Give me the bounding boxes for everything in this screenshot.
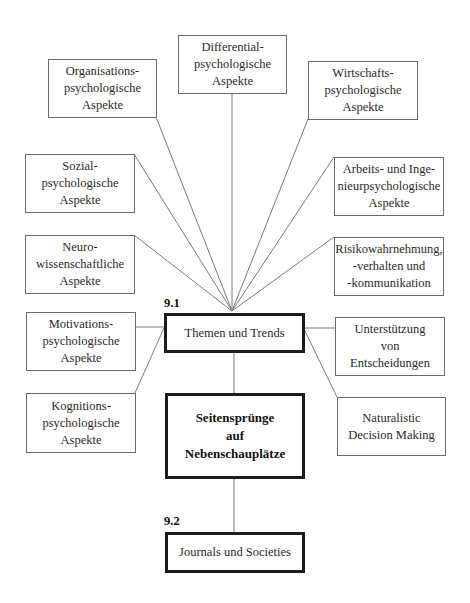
- section-title: Themen und Trends: [185, 325, 285, 342]
- topic-line: Differential-: [201, 39, 263, 56]
- topic-line: Neuro-: [62, 239, 97, 256]
- center-line: Seitensprünge: [196, 409, 275, 427]
- section-title: Journals und Societies: [179, 544, 291, 561]
- topic-line: Organisations-: [66, 63, 139, 80]
- topic-line: psychologische: [42, 415, 119, 432]
- section-number-9-1: 9.1: [164, 296, 180, 311]
- topic-line: Kognitions-: [51, 398, 111, 415]
- topic-line: Aspekte: [343, 99, 384, 116]
- topic-kognition: Kognitions- psychologische Aspekte: [26, 393, 136, 453]
- topic-line: Naturalistic: [362, 410, 420, 427]
- topic-line: psychologische: [324, 82, 401, 99]
- topic-line: Unterstützung: [355, 321, 426, 338]
- topic-line: Risikowahrnehmung,: [335, 241, 442, 258]
- section-themen-und-trends: Themen und Trends: [164, 313, 305, 353]
- topic-line: Motivations-: [49, 316, 114, 333]
- link-wirtschaft: [232, 119, 308, 311]
- topic-line: Entscheidungen: [350, 355, 430, 372]
- topic-neuro: Neuro- wissenschaftliche Aspekte: [25, 235, 135, 294]
- topic-wirtschaft: Wirtschafts- psychologische Aspekte: [308, 61, 418, 120]
- topic-line: von: [381, 338, 400, 355]
- topic-risiko: Risikowahrnehmung, -verhalten und -kommu…: [334, 237, 444, 296]
- center-seitenspruenge: Seitensprünge auf Nebenschauplätze: [165, 393, 305, 479]
- topic-line: psychologische: [42, 333, 119, 350]
- topic-line: Wirtschafts-: [332, 65, 393, 82]
- topic-unterstuetzung: Unterstützung von Entscheidungen: [335, 317, 445, 376]
- link-naturalistic: [304, 329, 337, 397]
- topic-line: Aspekte: [60, 273, 101, 290]
- link-kognition: [135, 328, 164, 393]
- topic-differential: Differential- psychologische Aspekte: [178, 35, 287, 94]
- topic-naturalistic: Naturalistic Decision Making: [337, 397, 446, 456]
- topic-line: nieurpsychologische: [338, 178, 441, 195]
- section-journals-und-societies: Journals und Societies: [165, 532, 305, 573]
- center-line: Nebenschauplätze: [185, 445, 285, 463]
- topic-motivation: Motivations- psychologische Aspekte: [26, 312, 136, 371]
- topic-organisation: Organisations- psychologische Aspekte: [48, 59, 157, 118]
- link-arbeit: [232, 157, 334, 311]
- topic-line: Aspekte: [60, 192, 101, 209]
- topic-sozial: Sozial- psychologische Aspekte: [25, 154, 135, 213]
- topic-line: Decision Making: [348, 427, 434, 444]
- topic-line: -verhalten und: [353, 258, 426, 275]
- topic-line: Aspekte: [61, 432, 102, 449]
- topic-line: Aspekte: [369, 195, 410, 212]
- topic-line: psychologische: [194, 56, 271, 73]
- link-risiko: [232, 237, 334, 311]
- topic-line: wissenschaftliche: [36, 256, 124, 273]
- topic-line: Aspekte: [82, 97, 123, 114]
- topic-line: Aspekte: [61, 350, 102, 367]
- topic-line: psychologische: [64, 80, 141, 97]
- topic-line: -kommunikation: [347, 275, 430, 292]
- center-line: auf: [226, 427, 244, 445]
- topic-line: psychologische: [41, 175, 118, 192]
- topic-arbeit: Arbeits- und Inge- nieurpsychologische A…: [334, 157, 444, 216]
- section-number-9-2: 9.2: [164, 514, 180, 529]
- topic-line: Arbeits- und Inge-: [343, 161, 435, 178]
- topic-line: Sozial-: [62, 158, 97, 175]
- link-sozial: [134, 154, 232, 311]
- topic-line: Aspekte: [212, 73, 253, 90]
